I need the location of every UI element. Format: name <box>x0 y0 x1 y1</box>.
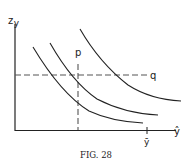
figure-diagram: zy ŷ ȳ p q FIG. 28 <box>0 0 190 167</box>
p-label: p <box>75 47 81 58</box>
x-axis-label: ŷ <box>174 126 180 137</box>
indifference-curve-1 <box>33 47 143 123</box>
q-label: q <box>150 70 156 81</box>
indifference-curve-3 <box>80 29 181 101</box>
figure-caption: FIG. 28 <box>80 150 112 160</box>
indifference-curve-2 <box>50 43 158 115</box>
y-axis-label: zy <box>8 15 20 28</box>
x-tick-label: ȳ <box>144 137 150 147</box>
